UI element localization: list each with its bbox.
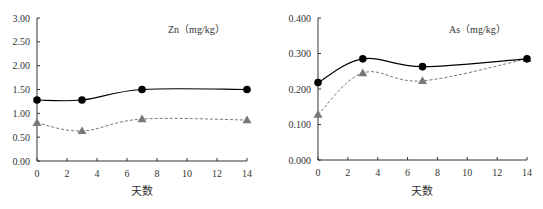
circle-marker-icon (314, 79, 322, 87)
x-tick-label: 8 (155, 168, 160, 179)
x-tick-label: 10 (182, 168, 192, 179)
x-tick-label: 4 (95, 168, 100, 179)
triangle-marker-icon (33, 118, 42, 126)
as-chart: 0.0000.1000.2000.3000.40002468101214As（m… (289, 13, 533, 199)
triangle-marker-icon (243, 116, 252, 124)
circle-marker-icon (78, 96, 86, 104)
x-tick-label: 2 (65, 168, 70, 179)
x-tick-label: 6 (405, 167, 410, 178)
x-axis-label: 天数 (131, 185, 153, 198)
triangle-marker-icon (358, 69, 367, 77)
y-tick-label: 3.00 (13, 13, 31, 24)
circle-marker-icon (33, 96, 41, 104)
x-tick-label: 14 (522, 167, 532, 178)
circle-marker-icon (419, 63, 427, 71)
y-tick-label: 0.000 (289, 155, 312, 166)
chart-title: As（mg/kg） (449, 24, 506, 35)
zn-chart: 0.000.501.001.502.002.503.0002468101214Z… (13, 13, 253, 199)
y-tick-label: 1.50 (13, 84, 31, 95)
x-tick-label: 0 (316, 167, 321, 178)
y-tick-label: 0.100 (289, 119, 312, 130)
y-tick-label: 2.00 (13, 60, 31, 71)
circle-marker-icon (523, 55, 531, 63)
circle-marker-icon (138, 86, 146, 94)
y-tick-label: 2.50 (13, 36, 31, 47)
chart-title: Zn（mg/kg） (168, 24, 225, 35)
x-tick-label: 12 (212, 168, 222, 179)
x-tick-label: 4 (375, 167, 380, 178)
x-tick-label: 14 (242, 168, 252, 179)
x-tick-label: 2 (345, 167, 350, 178)
y-tick-label: 1.00 (13, 108, 31, 119)
x-tick-label: 8 (435, 167, 440, 178)
triangle-marker-icon (78, 126, 87, 134)
x-tick-label: 10 (462, 167, 472, 178)
x-tick-label: 0 (35, 168, 40, 179)
y-tick-label: 0.200 (289, 84, 312, 95)
y-tick-label: 0.00 (13, 156, 31, 167)
y-tick-label: 0.300 (289, 48, 312, 59)
y-tick-label: 0.400 (289, 13, 312, 24)
x-tick-label: 6 (125, 168, 130, 179)
x-axis-label: 天数 (411, 185, 433, 198)
chart-canvas: 0.000.501.001.502.002.503.0002468101214Z… (0, 0, 543, 209)
triangle-marker-icon (314, 110, 323, 118)
x-tick-label: 12 (492, 167, 502, 178)
y-tick-label: 0.50 (13, 132, 31, 143)
circle-marker-icon (243, 86, 251, 94)
circle-marker-icon (359, 55, 367, 63)
